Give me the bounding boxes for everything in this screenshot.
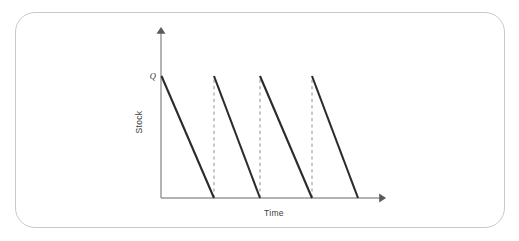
y-axis-label: Stock <box>134 110 144 133</box>
x-axis-label: Time <box>264 208 284 218</box>
screenshot-root: Q Stock Time <box>0 0 519 241</box>
dashed-risers-group <box>214 76 312 198</box>
depletion-segment <box>260 76 312 198</box>
depletion-segment <box>214 76 260 198</box>
depletion-segment <box>312 76 358 198</box>
sawtooth-inventory-chart: Q Stock Time <box>0 0 519 241</box>
depletion-segment <box>162 76 215 198</box>
order-quantity-label: Q <box>150 71 156 81</box>
